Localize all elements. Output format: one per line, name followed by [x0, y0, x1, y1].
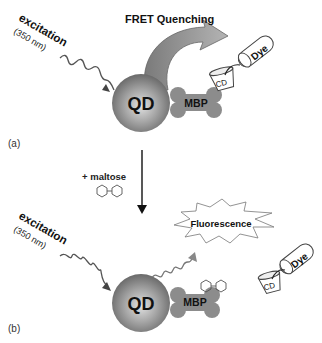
emission-wave-icon [152, 252, 197, 278]
qd-label-b: QD [128, 294, 155, 314]
transition: + maltose [82, 150, 147, 214]
excitation-wave-icon-a [60, 55, 114, 92]
process-arrow-head-icon [137, 205, 147, 214]
maltose-label: + maltose [82, 171, 126, 182]
fluorescence-label: Fluorescence [190, 218, 251, 229]
panel-b-label: (b) [8, 323, 20, 334]
mbp-label-a: MBP [184, 97, 207, 109]
panel-a: excitation (350 nm) FRET Quenching QD MB… [8, 11, 276, 149]
panel-a-label: (a) [8, 138, 20, 149]
fret-quenching-title: FRET Quenching [125, 13, 214, 25]
excitation-wave-icon-b [60, 254, 111, 291]
mbp-label-b: MBP [183, 296, 206, 308]
maltose-molecule-icon [97, 185, 122, 197]
panel-b: excitation (350 nm) Fluorescence QD MBP [8, 199, 316, 334]
fret-diagram: excitation (350 nm) FRET Quenching QD MB… [0, 0, 322, 343]
qd-label-a: QD [128, 94, 155, 114]
